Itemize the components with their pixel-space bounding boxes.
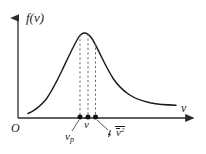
radicand: v2 (115, 126, 125, 138)
label-rms-speed: v2 (108, 126, 125, 138)
leader-line-vp (72, 120, 79, 131)
marker-dot-vp (78, 115, 83, 120)
radical-sign-icon: v2 (108, 126, 125, 138)
origin-label: O (11, 122, 20, 134)
speed-distribution-figure: f(v) v O vp v v2 (0, 0, 206, 154)
label-vrms-exponent: 2 (121, 126, 125, 134)
label-vrms-main: v (116, 127, 121, 138)
label-most-probable-speed: vp (65, 131, 74, 144)
marker-dot-vrms (93, 115, 98, 120)
x-axis-label: v (181, 102, 186, 114)
distribution-curve (28, 33, 176, 114)
label-vp-subscript: p (70, 135, 74, 144)
label-mean-speed: v (84, 119, 89, 130)
leader-line-vrms (97, 120, 108, 130)
label-vbar-main: v (84, 119, 89, 130)
y-axis-label: f(v) (26, 11, 44, 24)
